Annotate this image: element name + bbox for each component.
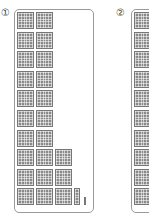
hundred-block <box>134 149 149 166</box>
hundred-block <box>134 12 149 29</box>
hundred-block <box>17 12 34 29</box>
panel-2-label: ② <box>116 8 125 18</box>
tens-rod-group <box>74 188 80 205</box>
hundred-block <box>36 51 53 68</box>
hundred-block <box>17 130 34 147</box>
hundred-block <box>36 90 53 107</box>
hundred-block <box>17 71 34 88</box>
hundred-block <box>17 149 34 166</box>
hundred-block <box>55 188 72 205</box>
hundred-block <box>36 130 53 147</box>
hundred-block <box>134 71 149 88</box>
hundred-block <box>17 90 34 107</box>
panel-1-label: ① <box>1 8 10 18</box>
hundred-block <box>134 51 149 68</box>
hundred-block <box>36 12 53 29</box>
hundred-block <box>134 90 149 107</box>
hundred-block <box>36 188 53 205</box>
hundred-block <box>17 169 34 186</box>
hundred-block <box>36 71 53 88</box>
hundred-block <box>36 110 53 127</box>
hundred-block <box>55 169 72 186</box>
hundred-block <box>55 149 72 166</box>
hundred-block <box>134 169 149 186</box>
hundred-block <box>134 32 149 49</box>
hundred-block <box>17 188 34 205</box>
hundred-block <box>17 51 34 68</box>
hundred-block <box>17 32 34 49</box>
hundred-block <box>17 110 34 127</box>
hundred-block <box>134 110 149 127</box>
hundred-block <box>36 32 53 49</box>
hundred-block <box>134 188 149 205</box>
hundred-block <box>36 149 53 166</box>
hundred-block <box>134 130 149 147</box>
hundred-block <box>36 169 53 186</box>
unit-cube <box>84 197 86 205</box>
